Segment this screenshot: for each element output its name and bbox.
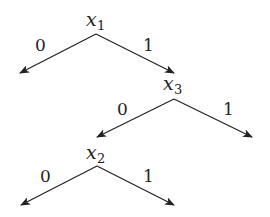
edge-x3-0 bbox=[97, 99, 174, 137]
edge-x1-0 bbox=[20, 34, 96, 73]
edge-label-x1-0: 0 bbox=[35, 35, 46, 55]
edge-x1-1 bbox=[96, 34, 174, 73]
node-x1-var: x bbox=[86, 8, 97, 30]
edge-label-x3-1: 1 bbox=[223, 99, 234, 119]
edge-x2-1 bbox=[97, 166, 174, 205]
node-x1-sub: 1 bbox=[97, 18, 105, 33]
edge-x3-1 bbox=[174, 99, 252, 137]
edge-label-x3-0: 0 bbox=[117, 99, 128, 119]
edge-label-x1-1: 1 bbox=[143, 35, 154, 55]
decision-tree-diagram: x 1 0 1 x 3 0 1 x 2 0 1 bbox=[0, 0, 270, 217]
edge-x2-0 bbox=[21, 166, 97, 205]
edge-label-x2-1: 1 bbox=[143, 166, 154, 186]
node-x3-sub: 3 bbox=[174, 82, 182, 97]
node-x2-sub: 2 bbox=[97, 151, 105, 166]
node-x3: x 3 bbox=[163, 72, 182, 97]
tree-svg: x 1 0 1 x 3 0 1 x 2 0 1 bbox=[0, 0, 270, 217]
node-x2-var: x bbox=[86, 141, 97, 163]
edge-label-x2-0: 0 bbox=[40, 166, 51, 186]
node-x1: x 1 bbox=[86, 8, 105, 33]
node-x2: x 2 bbox=[86, 141, 105, 166]
node-x3-var: x bbox=[163, 72, 174, 94]
